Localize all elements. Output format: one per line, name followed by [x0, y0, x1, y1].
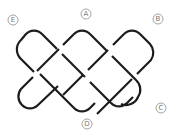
knot-strands: [17, 31, 153, 114]
strand-bottom-left-lobe: [18, 77, 58, 108]
label-d-text: D: [84, 120, 89, 128]
strand-diagonal-3c: [97, 79, 132, 114]
strand-diagonal-3b: [63, 75, 83, 95]
label-b: B: [153, 14, 163, 24]
strand-top-middle-arch: [63, 31, 107, 51]
label-c: C: [156, 103, 166, 113]
strand-diagonal-1a: [62, 54, 85, 77]
label-e: E: [8, 15, 18, 25]
strand-diagonal-2a: [37, 49, 59, 71]
label-c-text: C: [159, 104, 164, 112]
knot-diagram: A B C D E: [0, 0, 179, 137]
strand-left-top-lobe: [17, 31, 57, 72]
label-b-text: B: [156, 15, 161, 23]
label-a: A: [81, 9, 91, 19]
strand-bottom-middle-trough: [40, 74, 95, 111]
strand-top-right-arch: [113, 31, 153, 74]
label-d: D: [82, 119, 92, 129]
label-a-text: A: [84, 10, 89, 18]
strand-diagonal-2b: [112, 56, 140, 105]
strand-diagonal-3a: [88, 50, 108, 70]
label-e-text: E: [11, 16, 15, 24]
